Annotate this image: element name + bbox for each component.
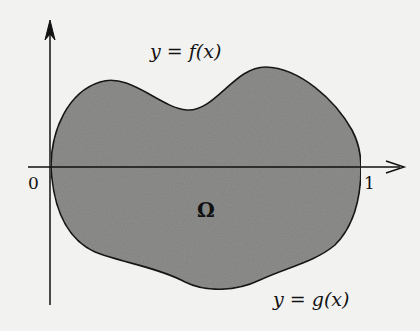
x-tick-0: 0 <box>28 173 39 193</box>
region-label: Ω <box>197 198 215 222</box>
diagram: y = f(x) y = g(x) 0 1 Ω <box>0 0 420 331</box>
region-omega <box>51 67 361 289</box>
lower-curve-label: y = g(x) <box>273 288 349 310</box>
x-tick-1: 1 <box>364 173 375 193</box>
upper-curve-label: y = f(x) <box>150 40 221 62</box>
